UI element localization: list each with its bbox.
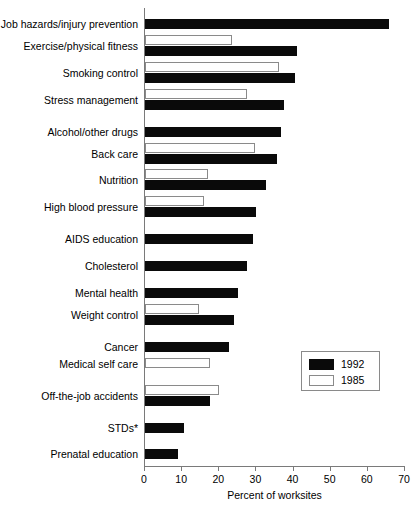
bar-1992 [145, 288, 238, 298]
plot-area: Job hazards/injury preventionExercise/ph… [0, 0, 418, 518]
category-label: Back care [0, 148, 138, 160]
x-axis-tick-label: 30 [240, 473, 270, 485]
legend-label-1992: 1992 [341, 358, 364, 370]
bar-1992 [145, 100, 284, 110]
x-axis-tick [181, 466, 182, 471]
bar-1985 [145, 62, 279, 72]
bar-1992 [145, 342, 229, 352]
x-axis-title: Percent of worksites [144, 489, 405, 501]
bar-1992 [145, 19, 389, 29]
x-axis-tick [218, 466, 219, 471]
legend-label-1985: 1985 [341, 374, 364, 386]
bar-1992 [145, 127, 281, 137]
x-axis-tick [330, 466, 331, 471]
x-axis-tick-label: 10 [166, 473, 196, 485]
bar-1992 [145, 46, 297, 56]
x-axis-tick [293, 466, 294, 471]
legend-entry-1992: 1992 [309, 358, 364, 370]
category-label: Off-the-job accidents [0, 390, 138, 402]
bar-1992 [145, 449, 178, 459]
x-axis-line [144, 466, 405, 467]
x-axis-tick-label: 0 [129, 473, 159, 485]
category-label: Job hazards/injury prevention [0, 18, 138, 30]
bar-1992 [145, 234, 253, 244]
category-label: Nutrition [0, 174, 138, 186]
category-label: Prenatal education [0, 448, 138, 460]
x-axis-tick [255, 466, 256, 471]
legend-swatch-1992 [309, 359, 334, 370]
category-label: Medical self care [0, 358, 138, 370]
category-label: Cholesterol [0, 260, 138, 272]
x-axis-tick [367, 466, 368, 471]
bar-1985 [145, 143, 255, 153]
category-label: Cancer [0, 341, 138, 353]
category-label: Exercise/physical fitness [0, 40, 138, 52]
bar-1985 [145, 89, 247, 99]
chart-legend: 1992 1985 [301, 351, 380, 391]
bar-1985 [145, 169, 208, 179]
bar-1992 [145, 315, 234, 325]
category-label: Alcohol/other drugs [0, 126, 138, 138]
bar-1985 [145, 35, 232, 45]
category-label: High blood pressure [0, 201, 138, 213]
x-axis-tick-label: 60 [352, 473, 382, 485]
bar-1992 [145, 154, 277, 164]
x-axis-tick [404, 466, 405, 471]
category-label: Weight control [0, 309, 138, 321]
bar-chart: Job hazards/injury preventionExercise/ph… [0, 0, 418, 518]
x-axis-tick-label: 40 [278, 473, 308, 485]
category-label: AIDS education [0, 233, 138, 245]
bar-1992 [145, 396, 210, 406]
x-axis-tick-label: 50 [315, 473, 345, 485]
bar-1992 [145, 180, 266, 190]
category-label: Smoking control [0, 67, 138, 79]
category-label: Mental health [0, 287, 138, 299]
x-axis-tick-label: 70 [389, 473, 418, 485]
bar-1992 [145, 207, 256, 217]
x-axis-tick-label: 20 [203, 473, 233, 485]
bar-1985 [145, 196, 204, 206]
x-axis-tick [144, 466, 145, 471]
bar-1992 [145, 423, 184, 433]
category-label: Stress management [0, 94, 138, 106]
bar-1985 [145, 385, 219, 395]
bar-1992 [145, 73, 295, 83]
legend-entry-1985: 1985 [309, 374, 364, 386]
bar-1985 [145, 304, 199, 314]
bar-1985 [145, 358, 210, 368]
legend-swatch-1985 [309, 375, 334, 386]
category-label: STDs* [0, 422, 138, 434]
bar-1992 [145, 261, 247, 271]
